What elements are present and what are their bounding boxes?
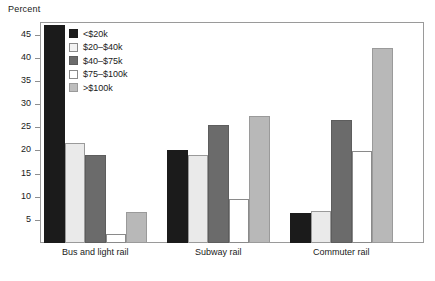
legend-item-label: $40–$75k (83, 56, 123, 66)
y-axis-tick-label: 25 (21, 121, 31, 132)
legend-item[interactable]: $75–$100k (69, 69, 128, 80)
legend-swatch (69, 70, 78, 79)
bar[interactable] (44, 25, 65, 243)
bar[interactable] (331, 120, 352, 243)
y-axis-tick-mark (35, 174, 40, 175)
bar[interactable] (311, 211, 332, 243)
legend-item-label: $75–$100k (83, 69, 128, 79)
y-axis-tick-mark (35, 81, 40, 82)
y-axis-tick-mark (35, 150, 40, 151)
legend-swatch (69, 29, 78, 38)
bar[interactable] (229, 199, 250, 243)
y-axis-tick-mark (35, 220, 40, 221)
y-axis-tick-label: 40 (21, 52, 31, 63)
y-axis-tick-mark (35, 127, 40, 128)
bar[interactable] (65, 143, 86, 243)
y-axis-tick-mark (35, 35, 40, 36)
bar[interactable] (208, 125, 229, 243)
y-axis-tick-label: 35 (21, 75, 31, 86)
legend-swatch (69, 83, 78, 92)
y-axis-tick-label: 20 (21, 144, 31, 155)
legend-item[interactable]: >$100k (69, 82, 128, 93)
bar[interactable] (167, 150, 188, 243)
bar[interactable] (106, 234, 127, 243)
bar-group (167, 23, 270, 243)
x-axis-group-label: Subway rail (147, 247, 290, 257)
y-axis-tick-mark (35, 104, 40, 105)
bar-chart: Percent 51015202530354045 <$20k$20–$40k$… (0, 0, 435, 281)
bar[interactable] (188, 155, 209, 243)
bar[interactable] (85, 155, 106, 243)
legend-item-label: $20–$40k (83, 42, 123, 52)
y-axis-tick-label: 45 (21, 29, 31, 40)
x-axis-group-label: Commuter rail (270, 247, 413, 257)
x-axis-group-label: Bus and light rail (24, 247, 167, 257)
y-axis-tick-label: 15 (21, 168, 31, 179)
bar[interactable] (126, 212, 147, 243)
bar[interactable] (249, 116, 270, 243)
y-axis-title: Percent (8, 4, 40, 14)
bar[interactable] (372, 48, 393, 243)
y-axis-tick-label: 30 (21, 98, 31, 109)
legend-item-label: <$20k (83, 29, 108, 39)
bar[interactable] (352, 151, 373, 243)
legend-item[interactable]: $20–$40k (69, 42, 128, 53)
y-axis-tick-mark (35, 58, 40, 59)
bar[interactable] (290, 213, 311, 243)
legend-item[interactable]: $40–$75k (69, 55, 128, 66)
bar-group (290, 23, 393, 243)
legend-item[interactable]: <$20k (69, 28, 128, 39)
legend-item-label: >$100k (83, 83, 113, 93)
chart-legend: <$20k$20–$40k$40–$75k$75–$100k>$100k (69, 28, 128, 93)
legend-swatch (69, 43, 78, 52)
y-axis-tick-label: 10 (21, 191, 31, 202)
y-axis-tick-label: 5 (26, 214, 31, 225)
legend-swatch (69, 56, 78, 65)
y-axis-tick-mark (35, 197, 40, 198)
